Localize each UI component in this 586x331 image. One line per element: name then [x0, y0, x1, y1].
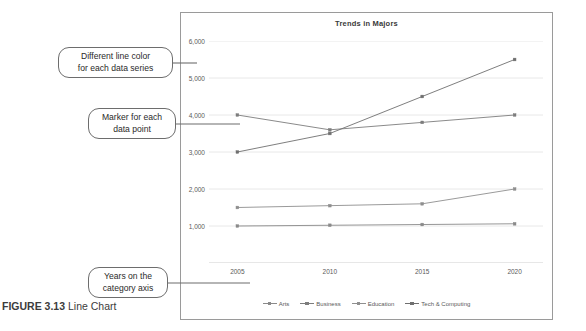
y-axis-tick-label: 4,000: [189, 112, 205, 119]
callout-leader-line-color: [173, 62, 203, 68]
callout-different-line-color: Different line color for each data serie…: [58, 47, 173, 78]
callout-line-1: Different line color: [81, 51, 150, 62]
legend-swatch-icon: [352, 300, 366, 307]
figure-caption-text: Line Chart: [68, 300, 116, 312]
series-lines: [237, 60, 514, 227]
callout-line-2: category axis: [103, 283, 154, 294]
data-point-marker: [421, 202, 424, 205]
legend-label: Business: [316, 301, 340, 307]
data-point-marker: [328, 132, 331, 135]
plot-area: 1,0002,0003,0004,0005,0006,000 200520102…: [209, 41, 543, 263]
x-axis-tick-label: 2010: [323, 268, 337, 275]
figure-caption: FIGURE 3.13 Line Chart: [2, 300, 116, 312]
data-point-marker: [236, 151, 239, 154]
callout-years-on-category-axis: Years on the category axis: [88, 267, 168, 298]
legend-item-arts[interactable]: Arts: [263, 300, 290, 307]
gridlines: [209, 41, 543, 226]
chart-title: Trends in Majors: [181, 19, 552, 28]
legend-item-education[interactable]: Education: [352, 300, 395, 307]
y-axis-tick-label: 6,000: [189, 38, 205, 45]
data-point-marker: [513, 58, 516, 61]
figure-label: FIGURE 3.13: [2, 300, 65, 312]
callout-line-1: Marker for each: [102, 112, 162, 123]
legend-label: Arts: [279, 301, 290, 307]
data-point-marker: [421, 121, 424, 124]
data-point-marker: [513, 114, 516, 117]
data-point-marker: [421, 223, 424, 226]
y-axis-tick-label: 1,000: [189, 223, 205, 230]
line-chart-svg: [209, 41, 543, 263]
data-point-marker: [328, 204, 331, 207]
callout-line-2: for each data series: [78, 63, 153, 74]
callout-marker-for-each-point: Marker for each data point: [88, 108, 176, 139]
series-line-tech-computing: [237, 60, 514, 153]
callout-line-2: data point: [113, 124, 151, 135]
x-axis-tick-label: 2015: [415, 268, 429, 275]
y-axis-tick-label: 5,000: [189, 75, 205, 82]
x-axis-tick-label: 2005: [230, 268, 244, 275]
legend-swatch-icon: [263, 300, 277, 307]
series-line-business: [237, 115, 514, 130]
series-line-education: [237, 189, 514, 208]
legend-swatch-icon: [300, 300, 314, 307]
y-axis-tick-label: 2,000: [189, 186, 205, 193]
legend-label: Tech & Computing: [421, 301, 470, 307]
data-point-marker: [236, 114, 239, 117]
data-point-marker: [328, 224, 331, 227]
data-point-marker: [236, 206, 239, 209]
series-markers: [236, 58, 516, 227]
y-axis-tick-label: 3,000: [189, 149, 205, 156]
legend-item-tech-computing[interactable]: Tech & Computing: [405, 300, 470, 307]
data-point-marker: [421, 95, 424, 98]
x-axis-tick-label: 2020: [507, 268, 521, 275]
callout-leader-line-marker: [176, 123, 246, 131]
data-point-marker: [328, 128, 331, 131]
data-point-marker: [236, 225, 239, 228]
chart-legend: ArtsBusinessEducationTech & Computing: [181, 300, 552, 307]
data-point-marker: [513, 188, 516, 191]
data-point-marker: [513, 222, 516, 225]
legend-item-business[interactable]: Business: [300, 300, 340, 307]
callout-leader-line-years: [168, 282, 263, 296]
chart-panel: Trends in Majors 1,0002,0003,0004,0005,0…: [180, 12, 553, 320]
legend-swatch-icon: [405, 300, 419, 307]
callout-line-1: Years on the: [104, 271, 152, 282]
legend-label: Education: [368, 301, 395, 307]
